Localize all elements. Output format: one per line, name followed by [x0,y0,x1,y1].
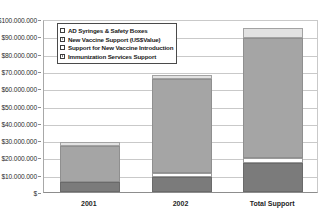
legend-item[interactable]: New Vaccine Support (US$Value) [60,35,173,43]
y-axis-tick-label: $100.000.000 [0,17,37,24]
bar-segment[interactable] [60,182,120,192]
bar-segment[interactable] [243,28,303,38]
x-axis-tick-label: Total Support [250,200,295,208]
legend-item-label: Support for New Vaccine Introduction [68,44,173,51]
bar-segment[interactable] [60,146,120,182]
bar-segment[interactable] [243,163,303,192]
y-axis-tick-label: $80.000.000 [1,51,37,58]
y-axis-tick-label: $70.000.000 [1,68,37,75]
chart-legend: AD Syringes & Safety BoxesNew Vaccine Su… [57,23,177,64]
y-axis-tick-mark [38,193,41,194]
bar-segment[interactable] [152,177,212,192]
legend-item[interactable]: AD Syringes & Safety Boxes [60,27,173,35]
legend-item-label: Immunization Services Support [68,53,156,60]
legend-swatch-icon [60,54,65,59]
y-axis-tick-label: $30.000.000 [1,138,37,145]
y-axis-tick-mark [38,124,41,125]
y-axis-tick-label: $ [33,190,37,197]
y-axis-tick-mark [38,158,41,159]
y-axis-tick-mark [38,55,41,56]
y-axis-tick-label: $20.000.000 [1,155,37,162]
bar-group[interactable] [243,21,303,192]
x-axis-tick-label: 2002 [173,200,189,208]
y-axis-tick-label: $40.000.000 [1,120,37,127]
legend-item[interactable]: Support for New Vaccine Introduction [60,44,173,52]
bar-stack[interactable] [152,75,212,192]
legend-swatch-icon [60,28,65,33]
y-axis-tick-mark [38,89,41,90]
chart-title [0,0,322,13]
bar-segment[interactable] [152,79,212,173]
legend-item-label: AD Syringes & Safety Boxes [68,27,148,34]
x-axis: 20012002Total Support [43,196,318,214]
bar-stack[interactable] [243,28,303,192]
y-axis-tick-mark [38,107,41,108]
y-axis-tick-mark [38,141,41,142]
y-axis-tick-label: $60.000.000 [1,86,37,93]
y-axis-tick-label: $10.000.000 [1,172,37,179]
x-axis-tick-label: 2001 [81,200,97,208]
y-axis-tick-mark [38,72,41,73]
y-axis-tick-mark [38,176,41,177]
legend-item[interactable]: Immunization Services Support [60,52,173,60]
bar-segment[interactable] [243,38,303,158]
y-axis-tick-mark [38,37,41,38]
legend-swatch-icon [60,37,65,42]
y-axis-tick-label: $90.000.000 [1,34,37,41]
y-axis-tick-label: $50.000.000 [1,103,37,110]
legend-swatch-icon [60,45,65,50]
legend-item-label: New Vaccine Support (US$Value) [68,36,160,43]
stacked-bar-chart: $100.000.000$90.000.000$80.000.000$70.00… [0,0,322,216]
y-axis: $100.000.000$90.000.000$80.000.000$70.00… [0,20,41,193]
bar-stack[interactable] [60,142,120,192]
y-axis-tick-mark [38,20,41,21]
